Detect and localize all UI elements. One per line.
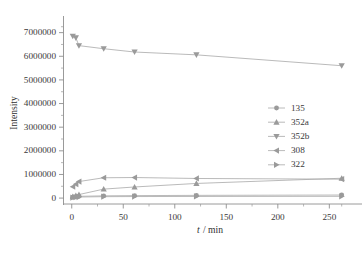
legend-label-352b: 352b — [291, 131, 310, 141]
legend-item-322: 322 — [268, 159, 305, 169]
legend-item-308: 308 — [268, 145, 305, 155]
data-point-308-5 — [193, 175, 199, 181]
series-322 — [70, 193, 345, 201]
legend-label-322: 322 — [291, 159, 305, 169]
data-point-352b-1 — [73, 35, 79, 41]
x-axis-tick-label: 100 — [168, 212, 182, 222]
x-axis-tick-label: 50 — [119, 212, 129, 222]
series-308 — [70, 174, 345, 189]
y-axis-tick-label: 7000000 — [24, 27, 57, 37]
y-axis: 0100000020000003000000400000050000006000… — [24, 16, 64, 205]
legend-item-135: 135 — [268, 103, 305, 113]
legend-marker-135 — [274, 106, 279, 111]
x-axis-tick-label: 150 — [219, 212, 233, 222]
x-axis-tick-label: 250 — [322, 212, 336, 222]
y-axis-tick-label: 1000000 — [24, 169, 57, 179]
y-axis-title: Intensity — [8, 96, 19, 130]
legend-item-352a: 352a — [268, 117, 309, 127]
y-axis-tick-label: 2000000 — [24, 145, 57, 155]
legend-label-352a: 352a — [291, 117, 309, 127]
y-axis-tick-label: 6000000 — [24, 51, 57, 61]
chart-container: 0100000020000003000000400000050000006000… — [0, 0, 364, 259]
x-axis: 050100150200250 — [64, 204, 363, 222]
series-line-352b — [73, 36, 342, 66]
data-point-352b-6 — [339, 63, 345, 69]
series-line-322 — [73, 196, 342, 197]
legend-marker-308 — [273, 148, 279, 154]
x-axis-title-unit: / min — [203, 224, 223, 235]
legend-label-135: 135 — [291, 103, 305, 113]
x-axis-title-variable: t — [197, 224, 200, 235]
chart-legend: 135352a352b308322 — [268, 103, 310, 170]
y-axis-tick-label: 4000000 — [24, 98, 57, 108]
legend-marker-322 — [274, 162, 280, 168]
legend-item-352b: 352b — [268, 131, 310, 141]
x-axis-title: t / min — [197, 224, 223, 235]
y-axis-tick-label: 0 — [51, 193, 56, 203]
y-axis-tick-label: 3000000 — [24, 122, 57, 132]
series-line-308 — [73, 178, 342, 187]
data-point-308-4 — [131, 174, 137, 180]
legend-label-308: 308 — [291, 145, 305, 155]
x-axis-tick-label: 200 — [271, 212, 285, 222]
data-point-308-3 — [101, 175, 107, 181]
series-352b — [70, 34, 345, 69]
intensity-vs-time-chart: 0100000020000003000000400000050000006000… — [0, 0, 364, 259]
x-axis-tick-label: 0 — [69, 212, 74, 222]
y-axis-tick-label: 5000000 — [24, 75, 57, 85]
series-line-352a — [73, 178, 342, 196]
